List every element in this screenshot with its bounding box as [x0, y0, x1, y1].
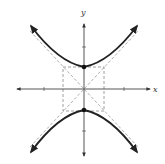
vertex-lower	[82, 108, 87, 113]
y-axis-label: y	[80, 8, 86, 17]
hyperbola-diagram: x y	[0, 0, 165, 164]
vertex-upper	[82, 65, 87, 70]
x-axis-label: x	[153, 85, 158, 94]
